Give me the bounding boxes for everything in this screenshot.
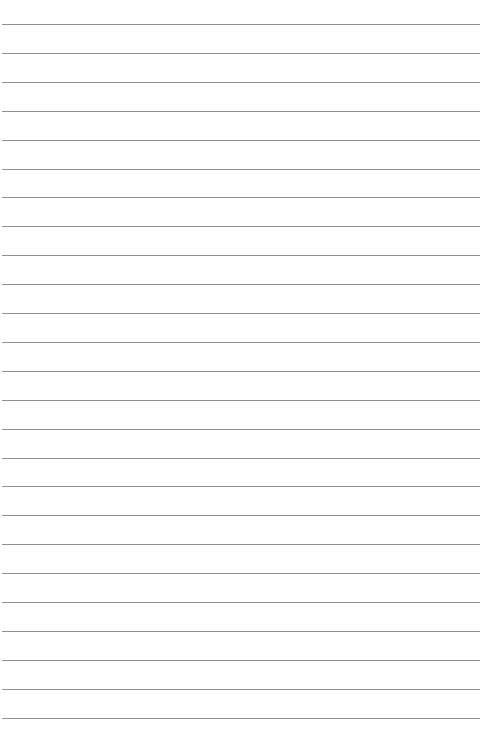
lined-paper-sheet [0,0,483,756]
ruled-line [2,718,480,719]
ruled-line [2,169,480,170]
ruled-line [2,400,480,401]
ruled-line [2,371,480,372]
ruled-line [2,602,480,603]
ruled-line [2,515,480,516]
ruled-line [2,24,480,25]
ruled-line [2,631,480,632]
ruled-line [2,342,480,343]
ruled-line [2,53,480,54]
ruled-line [2,226,480,227]
ruled-line [2,544,480,545]
ruled-line [2,486,480,487]
ruled-line [2,313,480,314]
ruled-line [2,111,480,112]
ruled-line [2,689,480,690]
ruled-line [2,660,480,661]
ruled-line [2,458,480,459]
ruled-line [2,197,480,198]
ruled-line [2,573,480,574]
ruled-line [2,255,480,256]
ruled-line [2,82,480,83]
ruled-line [2,429,480,430]
ruled-line [2,140,480,141]
ruled-line [2,284,480,285]
